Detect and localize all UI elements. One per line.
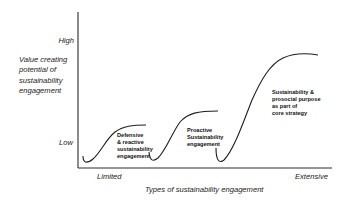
x-axis-min-label: Limited (97, 172, 121, 181)
stage-label-line: Sustainability (187, 134, 223, 141)
y-axis-title: Value creating potential of sustainabili… (19, 55, 76, 97)
stage-label-line: Sustainability & (272, 89, 321, 96)
stage-label-line: sustainability (117, 146, 153, 153)
stage-label-line: as part of (272, 103, 321, 110)
stage-label-line: & reactive (117, 139, 153, 146)
y-axis-low-label: Low (52, 138, 73, 147)
stage-label-defensive: Defensive & reactive sustainability enga… (117, 132, 153, 160)
y-axis-title-line: sustainability (19, 76, 76, 86)
y-axis-title-line: engagement (19, 86, 76, 96)
y-axis-title-line: potential of (19, 65, 76, 75)
stage-label-line: prosocial purpose (272, 96, 321, 103)
stage-label-line: engagement (187, 141, 223, 148)
diagram-canvas: High Low Value creating potential of sus… (0, 0, 351, 205)
stage-label-line: Defensive (117, 132, 153, 139)
stage-label-core-strategy: Sustainability & prosocial purpose as pa… (272, 89, 321, 117)
y-axis-title-line: Value creating (19, 55, 76, 65)
stage-label-proactive: Proactive Sustainability engagement (187, 127, 223, 148)
x-axis-title: Types of sustainability engagement (145, 185, 263, 194)
stage-label-line: engagement (117, 153, 153, 160)
x-axis-max-label: Extensive (295, 172, 328, 181)
stage-label-line: core strategy (272, 110, 321, 117)
y-axis-high-label: High (52, 36, 74, 45)
stage-label-line: Proactive (187, 127, 223, 134)
